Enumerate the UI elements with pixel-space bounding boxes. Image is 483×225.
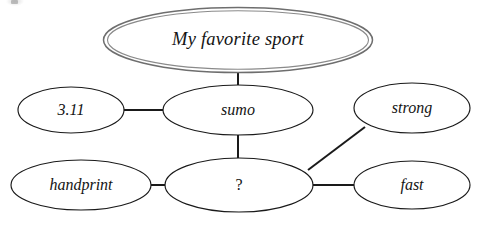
node-3-11-label: 3.11	[57, 101, 85, 118]
concept-map-diagram: My favorite sport 3.11 sumo strong handp…	[0, 0, 483, 225]
edge-query-to-strong	[308, 127, 365, 170]
diagram-canvas: My favorite sport 3.11 sumo strong handp…	[0, 0, 483, 225]
node-my-favorite-sport[interactable]: My favorite sport	[104, 8, 373, 73]
node-sumo[interactable]: sumo	[163, 85, 313, 135]
node-strong[interactable]: strong	[354, 83, 470, 133]
node-strong-label: strong	[392, 99, 432, 117]
node-question-mark[interactable]: ?	[165, 158, 313, 212]
node-fast[interactable]: fast	[354, 161, 470, 209]
node-root-label: My favorite sport	[171, 29, 305, 49]
node-handprint[interactable]: handprint	[11, 160, 151, 210]
node-fast-label: fast	[400, 176, 424, 194]
node-3-11[interactable]: 3.11	[18, 87, 124, 133]
node-handprint-label: handprint	[49, 176, 113, 194]
node-sumo-label: sumo	[221, 101, 255, 118]
node-question-mark-label: ?	[235, 176, 242, 193]
